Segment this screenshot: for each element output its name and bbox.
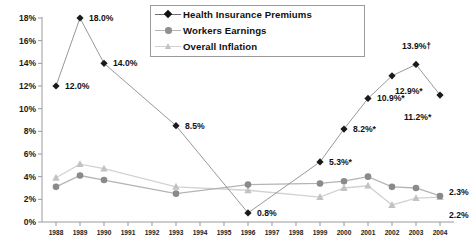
y-axis-tick: 0% — [6, 217, 36, 227]
y-axis-tick: 18% — [6, 13, 36, 23]
y-axis-tick: 8% — [6, 126, 36, 136]
legend-label: Health Insurance Premiums — [183, 9, 312, 20]
x-axis-tick: 2004 — [425, 229, 455, 236]
series-circle — [53, 172, 444, 199]
triangle-marker-icon — [155, 40, 181, 52]
y-axis-tick: 4% — [6, 172, 36, 182]
legend-label: Workers Earnings — [183, 25, 267, 36]
legend-item-workers-earnings[interactable]: Workers Earnings — [151, 22, 364, 38]
data-label: 2.2% — [449, 210, 469, 220]
data-label: 14.0% — [113, 58, 137, 68]
y-axis-tick: 10% — [6, 104, 36, 114]
data-label: 2.3% — [449, 187, 469, 197]
y-axis-tick: 16% — [6, 36, 36, 46]
data-label: 11.2%* — [404, 112, 431, 122]
data-label: 12.0% — [65, 81, 89, 91]
data-label: 8.2%* — [353, 124, 376, 134]
y-axis-tick: 12% — [6, 81, 36, 91]
y-axis-tick: 2% — [6, 194, 36, 204]
y-axis-tick: 14% — [6, 58, 36, 68]
data-label: 18.0% — [89, 13, 113, 23]
data-label: 0.8% — [257, 208, 277, 218]
data-label: 8.5% — [185, 121, 205, 131]
diamond-marker-icon — [155, 8, 181, 20]
legend-item-overall-inflation[interactable]: Overall Inflation — [151, 38, 364, 54]
legend-label: Overall Inflation — [183, 41, 257, 52]
data-label: 12.9%* — [395, 86, 423, 96]
data-label: 5.3%* — [329, 157, 352, 167]
data-label: 13.9%† — [402, 41, 431, 51]
chart-legend: Health Insurance Premiums Workers Earnin… — [150, 5, 365, 57]
circle-marker-icon — [155, 24, 181, 36]
legend-item-health-insurance-premiums[interactable]: Health Insurance Premiums — [151, 6, 364, 22]
y-axis-tick: 6% — [6, 149, 36, 159]
